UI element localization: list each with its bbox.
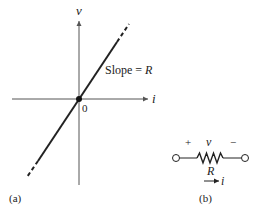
plus-sign: + xyxy=(185,136,191,148)
resistor-label: R xyxy=(206,164,215,178)
current-label: i xyxy=(221,174,224,188)
resistor-zigzag xyxy=(197,153,223,163)
x-axis-label: i xyxy=(152,91,156,106)
right-terminal xyxy=(242,155,249,162)
vi-characteristic-plot: v i 0 Slope = R (a) xyxy=(9,3,156,205)
figure-a-label: (a) xyxy=(9,192,22,205)
left-terminal xyxy=(173,155,180,162)
resistor-circuit: + v − R i (b) xyxy=(173,135,249,205)
minus-sign: − xyxy=(230,136,236,148)
voltage-label: v xyxy=(206,135,212,149)
y-axis-label: v xyxy=(76,3,82,18)
origin-label: 0 xyxy=(82,102,88,114)
slope-line-dashed-lower xyxy=(27,161,38,177)
figure-canvas: v i 0 Slope = R (a) + v − R i (b) xyxy=(0,0,265,216)
figure-b-label: (b) xyxy=(199,192,212,205)
slope-annotation: Slope = R xyxy=(105,63,153,77)
slope-line-dashed-upper xyxy=(117,24,129,42)
